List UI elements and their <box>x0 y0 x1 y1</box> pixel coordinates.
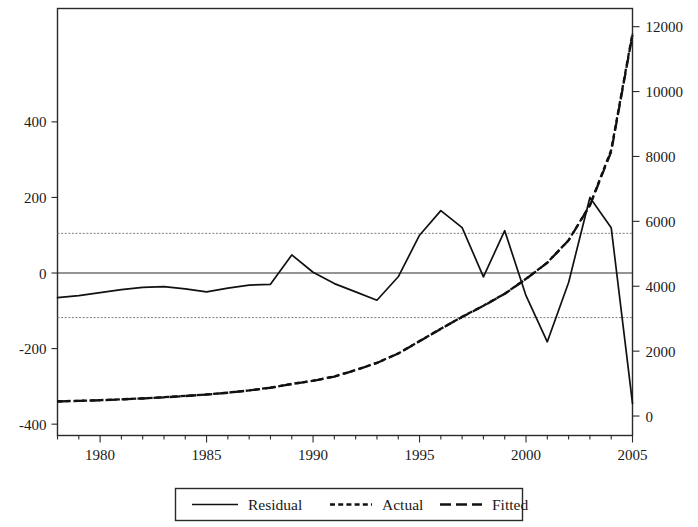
right-axis-tick-label: 6000 <box>646 214 676 230</box>
chart-container: 4002000-200-400 020004000600080001000012… <box>0 0 698 527</box>
right-axis-tick-label: 2000 <box>646 344 676 360</box>
x-axis-tick-label: 1985 <box>192 447 222 463</box>
reference-lines-group <box>58 233 633 317</box>
legend-label-residual: Residual <box>248 496 302 513</box>
right-axis-tick-label: 4000 <box>646 279 676 295</box>
series-line-fitted <box>58 35 633 402</box>
left-axis: 4002000-200-400 <box>19 114 58 432</box>
right-axis-tick-label: 12000 <box>646 19 684 35</box>
right-axis-tick-label: 10000 <box>646 84 684 100</box>
left-axis-tick-label: -200 <box>19 341 47 357</box>
left-axis-tick-label: -400 <box>19 417 47 433</box>
residual-actual-fitted-chart: 4002000-200-400 020004000600080001000012… <box>0 0 698 527</box>
left-axis-tick-label: 200 <box>24 190 47 206</box>
chart-legend: Residual Actual Fitted <box>176 489 529 521</box>
plot-frame <box>58 9 633 436</box>
right-axis-tick-label: 8000 <box>646 149 676 165</box>
x-axis-tick-label: 1995 <box>405 447 435 463</box>
x-axis-tick-label: 1990 <box>298 447 328 463</box>
bottom-axis: 198019851990199520002005 <box>58 436 648 463</box>
legend-label-actual: Actual <box>382 496 423 513</box>
legend-label-fitted: Fitted <box>492 496 528 513</box>
right-axis-tick-label: 0 <box>646 409 654 425</box>
x-axis-tick-label: 1980 <box>85 447 115 463</box>
left-axis-tick-label: 0 <box>39 266 47 282</box>
right-axis: 020004000600080001000012000 <box>633 19 684 424</box>
x-axis-tick-label: 2000 <box>511 447 541 463</box>
series-line-actual <box>58 33 633 401</box>
left-axis-tick-label: 400 <box>24 114 47 130</box>
x-axis-tick-label: 2005 <box>618 447 648 463</box>
